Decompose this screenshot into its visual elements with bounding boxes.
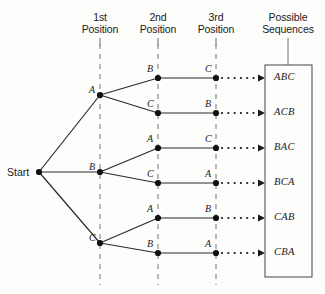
arrowhead-row-2 <box>258 110 265 117</box>
node-label-L2-2: C <box>147 98 154 109</box>
node-label-L2-4: C <box>147 168 154 179</box>
column-header-position-1: 1st Position <box>70 12 130 35</box>
tree-diagram-figure: 1st Position 2nd Position 3rd Position P… <box>0 0 325 294</box>
node-L3-1 <box>213 75 219 81</box>
node-label-L2-6: B <box>147 238 153 249</box>
leader-arrowheads <box>258 75 265 257</box>
node-L2-3 <box>155 145 161 151</box>
node-label-L2-3: A <box>147 133 153 144</box>
node-L1-B <box>97 169 103 175</box>
node-label-L1-A: A <box>89 84 95 95</box>
node-label-L3-5: B <box>205 203 211 214</box>
node-dots <box>36 75 219 256</box>
arrowhead-row-1 <box>258 75 265 82</box>
column-header-possible-sequences: Possible Sequences <box>252 12 324 35</box>
arrowhead-row-5 <box>258 215 265 222</box>
node-L3-4 <box>213 180 219 186</box>
branch-A-B <box>100 78 158 95</box>
node-label-L3-3: C <box>205 133 212 144</box>
node-L3-2 <box>213 110 219 116</box>
node-label-L1-C: C <box>89 232 96 243</box>
arrowhead-row-6 <box>258 250 265 257</box>
node-label-L2-1: B <box>147 63 153 74</box>
node-label-L3-1: C <box>205 63 212 74</box>
node-label-L3-4: A <box>205 168 211 179</box>
node-label-L1-B: B <box>89 161 95 172</box>
node-L3-6 <box>213 250 219 256</box>
node-label-L3-2: B <box>205 98 211 109</box>
node-L1-C <box>97 240 103 246</box>
sequence-label-1: ABC <box>274 71 295 82</box>
column-header-position-2: 2nd Position <box>128 12 188 35</box>
sequence-label-2: ACB <box>274 106 295 117</box>
node-label-L3-6: A <box>205 238 211 249</box>
node-L2-4 <box>155 180 161 186</box>
node-L2-2 <box>155 110 161 116</box>
node-label-L2-5: A <box>147 203 153 214</box>
node-start <box>36 169 42 175</box>
sequence-label-3: BAC <box>274 141 295 152</box>
sequence-label-6: CBA <box>274 246 295 257</box>
column-header-position-3: 3rd Position <box>186 12 246 35</box>
node-L3-3 <box>213 145 219 151</box>
node-L2-1 <box>155 75 161 81</box>
sequence-label-4: BCA <box>274 176 295 187</box>
node-L1-A <box>97 92 103 98</box>
start-label: Start <box>7 166 29 178</box>
arrowhead-row-3 <box>258 145 265 152</box>
sequence-label-5: CAB <box>274 211 295 222</box>
node-L2-5 <box>155 215 161 221</box>
dotted-leaders <box>222 78 256 253</box>
node-L3-5 <box>213 215 219 221</box>
node-L2-6 <box>155 250 161 256</box>
arrowhead-row-4 <box>258 180 265 187</box>
